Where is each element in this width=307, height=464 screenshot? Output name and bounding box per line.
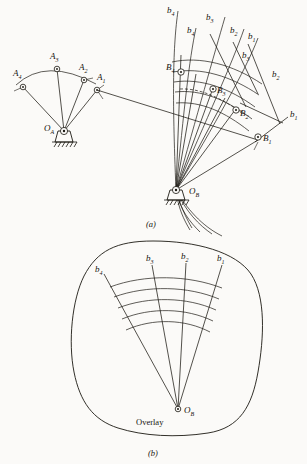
oa-hatching [54, 142, 77, 147]
label-ob-sub: B [196, 192, 200, 198]
grid-arc-1 [172, 60, 262, 84]
svg-text:A2: A2 [78, 62, 88, 74]
raylabel-b1-sub: 1 [295, 115, 298, 121]
crank-link-a1 [64, 90, 97, 131]
overlay-pivot: OB [175, 405, 194, 417]
svg-text:b2: b2 [272, 69, 280, 81]
ob-ray-6 [176, 98, 225, 190]
ob-center-dot [175, 189, 177, 191]
overlay-ob-dot [177, 408, 179, 410]
label-b3-sub: 3 [222, 91, 226, 97]
caption-b: (b) [148, 448, 158, 458]
joint-a3-dot [56, 68, 58, 70]
svg-text:b2: b2 [230, 25, 238, 37]
diagram-b: b4 b3 b2 b1 OB Overlay (b) [71, 241, 262, 458]
joint-b2-dot [235, 109, 237, 111]
overlay-arc-3 [118, 300, 216, 310]
svg-text:B4: B4 [166, 62, 175, 74]
label-oa-sub: A [50, 129, 55, 135]
svg-text:B1: B1 [263, 133, 272, 145]
curvelabel-b4-sub: 4 [172, 11, 175, 17]
svg-text:B3: B3 [217, 85, 226, 97]
svg-text:b1: b1 [248, 31, 256, 43]
joint-a2-dot [83, 79, 85, 81]
overlay-label-b1-sub: 1 [222, 259, 225, 265]
label-a2-sub: 2 [85, 68, 88, 74]
crank-joints [20, 66, 100, 93]
joint-b1-dot [257, 136, 259, 138]
overlay-arc-2 [114, 289, 219, 299]
svg-text:b2: b2 [181, 251, 189, 263]
overlay-label-ob-sub: B [191, 411, 195, 417]
svg-text:OA: OA [44, 123, 55, 135]
overlay-curve-group [174, 11, 258, 236]
curvelabel-b2-sub: 2 [235, 31, 238, 37]
curvelabel-b3-sub: 3 [210, 18, 214, 24]
svg-text:A1: A1 [96, 72, 106, 84]
svg-text:A4: A4 [12, 68, 22, 80]
label-b2-sub: 2 [246, 114, 249, 120]
overlay-rays [104, 263, 222, 409]
svg-text:B2: B2 [240, 108, 249, 120]
svg-text:b4: b4 [95, 264, 103, 276]
label-a4-sub: 4 [19, 74, 22, 80]
svg-text:b1: b1 [290, 109, 298, 121]
coupler-link-a1-b1 [97, 90, 258, 140]
svg-text:b1: b1 [217, 253, 225, 265]
overlay-ray-labels: b4 b3 b2 b1 [95, 251, 225, 276]
kinematics-overlay-figure: A4 A3 A2 A1 OA [0, 0, 307, 464]
label-a3-sub: 3 [55, 57, 59, 63]
label-a1-sub: 1 [103, 78, 106, 84]
ground-pivot-oa: OA [44, 123, 77, 147]
crank-link-a3 [57, 69, 64, 131]
crank-link-a2 [64, 80, 84, 131]
overlay-ray-b4 [104, 274, 178, 409]
diagram-a: A4 A3 A2 A1 OA [12, 5, 298, 236]
overlay-arcs [110, 278, 222, 332]
overlay-label-b2-sub: 2 [186, 257, 189, 263]
overlay-label-b4-sub: 4 [100, 270, 103, 276]
caption-a: (a) [146, 219, 156, 229]
svg-text:A3: A3 [49, 51, 59, 63]
label-b1-sub: 1 [269, 139, 272, 145]
raylabel-b3-sub: 3 [246, 56, 250, 62]
raylabel-b2-sub: 2 [277, 75, 280, 81]
svg-text:OB: OB [184, 405, 195, 417]
svg-text:b3: b3 [206, 12, 214, 24]
joint-b4-dot [180, 71, 182, 73]
joint-b3-dot [212, 88, 214, 90]
ob-ray-2 [176, 88, 213, 190]
label-b4-sub: 4 [172, 68, 175, 74]
ground-pivot-ob: OB [164, 186, 200, 205]
bline-b3 [210, 34, 246, 107]
svg-text:b3: b3 [242, 50, 250, 62]
overlay-label-b3-sub: 3 [150, 259, 154, 265]
svg-text:b4: b4 [187, 25, 195, 37]
overlay-text: Overlay [136, 417, 164, 427]
svg-text:b4: b4 [167, 5, 175, 17]
overlay-arc-1 [110, 278, 222, 288]
tick-b1 [254, 142, 258, 150]
overlay-arc-4 [122, 311, 213, 321]
crank-arc-group [14, 69, 104, 131]
joint-a4-dot [22, 86, 24, 88]
oa-center-dot [63, 130, 65, 132]
overlay-arc-5 [126, 322, 210, 332]
overlay-ray-b3 [152, 265, 178, 409]
curvelabel-b1-sub: 1 [253, 37, 256, 43]
curvelabel-b4b-sub: 4 [192, 31, 195, 37]
svg-text:OB: OB [189, 186, 200, 198]
svg-text:b3: b3 [146, 253, 154, 265]
